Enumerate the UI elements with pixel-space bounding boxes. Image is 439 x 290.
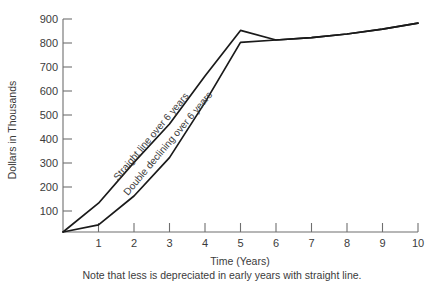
y-tick-label-900: 900 bbox=[40, 13, 58, 25]
y-tick-label-600: 600 bbox=[40, 85, 58, 97]
figure-caption: Note that less is depreciated in early y… bbox=[83, 269, 362, 281]
y-tick-label-800: 800 bbox=[40, 37, 58, 49]
series-label-double-declining: Double declining over 6 years bbox=[121, 89, 214, 197]
x-tick-label-8: 8 bbox=[344, 237, 350, 249]
x-axis-title: Time (Years) bbox=[210, 255, 269, 267]
x-tick-label-1: 1 bbox=[95, 237, 101, 249]
y-tick-label-700: 700 bbox=[40, 61, 58, 73]
y-tick-label-400: 400 bbox=[40, 133, 58, 145]
y-tick-label-300: 300 bbox=[40, 157, 58, 169]
series-line-straight-line bbox=[63, 23, 418, 232]
x-tick-label-4: 4 bbox=[202, 237, 208, 249]
y-tick-label-100: 100 bbox=[40, 205, 58, 217]
y-axis-title: Dollars in Thousands bbox=[6, 81, 18, 179]
x-tick-label-9: 9 bbox=[379, 237, 385, 249]
y-tick-label-200: 200 bbox=[40, 181, 58, 193]
chart-canvas: Dollars in Thousands 900 800 700 600 500… bbox=[0, 0, 439, 290]
x-tick-label-7: 7 bbox=[308, 237, 314, 249]
x-tick-label-10: 10 bbox=[412, 237, 424, 249]
x-tick-label-3: 3 bbox=[166, 237, 172, 249]
y-tick-label-500: 500 bbox=[40, 109, 58, 121]
x-tick-label-5: 5 bbox=[237, 237, 243, 249]
depreciation-chart-figure: Dollars in Thousands 900 800 700 600 500… bbox=[0, 0, 439, 290]
x-tick-label-2: 2 bbox=[131, 237, 137, 249]
series-line-double-declining bbox=[63, 23, 418, 232]
x-tick-label-6: 6 bbox=[273, 237, 279, 249]
